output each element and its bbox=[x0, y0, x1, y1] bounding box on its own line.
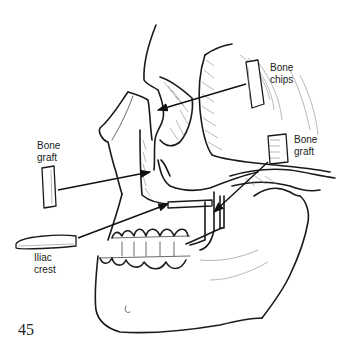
label-bone-graft-left-line1: Bone bbox=[37, 140, 60, 152]
label-bone-graft-right-line2: graft bbox=[294, 146, 317, 158]
label-bone-graft-left: Bone graft bbox=[37, 140, 60, 164]
bone-graft-left bbox=[42, 166, 56, 208]
skull-illustration bbox=[0, 0, 345, 359]
label-iliac-crest-line1: Iliac bbox=[34, 252, 56, 264]
bone-chips-graft bbox=[246, 60, 264, 108]
label-bone-chips-line2: chips bbox=[270, 74, 293, 86]
label-bone-graft-left-line2: graft bbox=[37, 152, 60, 164]
mandible-ramus bbox=[262, 196, 308, 318]
label-bone-graft-right: Bone graft bbox=[294, 134, 317, 158]
arrow-bone-graft-left bbox=[58, 172, 150, 190]
upper-teeth bbox=[112, 229, 190, 238]
arrow-bone-graft-right bbox=[214, 162, 268, 212]
iliac-crest-graft bbox=[16, 235, 76, 249]
label-iliac-crest: Iliac crest bbox=[34, 252, 56, 276]
label-bone-graft-right-line1: Bone bbox=[294, 134, 317, 146]
lower-teeth bbox=[100, 242, 190, 269]
bone-graft-right bbox=[268, 134, 288, 164]
maxilla-border bbox=[140, 130, 212, 204]
label-bone-chips: Bone chips bbox=[270, 62, 293, 86]
label-iliac-crest-line2: crest bbox=[34, 264, 56, 276]
label-bone-chips-line1: Bone bbox=[270, 62, 293, 74]
figure-number: 45 bbox=[18, 321, 34, 339]
nasal-profile bbox=[144, 25, 164, 170]
orbit-rim bbox=[205, 44, 232, 55]
